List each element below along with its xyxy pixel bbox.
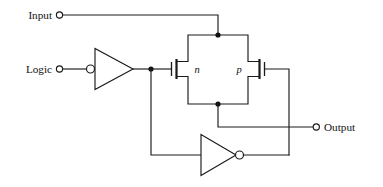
wire-pmos-gate-to-inverter2-output <box>265 69 290 155</box>
input-port-label: Input <box>28 9 53 21</box>
nmos-label: n <box>194 64 199 75</box>
inverter2-body[interactable] <box>201 135 236 176</box>
output-port-label: Output <box>324 121 356 133</box>
wire-pmos-drain-to-top-node <box>218 35 260 62</box>
inverter1-input-bubble-icon <box>87 65 95 73</box>
wire-input-to-tgate-top <box>63 15 218 35</box>
wire-pmos-source-to-bottom-node <box>218 77 260 105</box>
wire-nmos-drain-to-top-node <box>177 35 219 62</box>
wire-bottom-node-to-output <box>218 104 313 127</box>
output-terminal-icon[interactable] <box>313 124 319 130</box>
wire-lognode-to-inverter2-input <box>151 69 201 155</box>
tgate-top-junction <box>215 32 220 37</box>
pmos-label: p <box>235 64 241 75</box>
logic-port-label: Logic <box>26 63 52 75</box>
circuit-diagram: Input Logic n p <box>0 0 383 187</box>
schematic-canvas: Input Logic n p <box>0 0 383 187</box>
logic-terminal-icon[interactable] <box>56 66 62 72</box>
inverter1-body[interactable] <box>95 49 133 90</box>
inverter2-output-bubble-icon <box>236 151 244 159</box>
wire-nmos-source-to-bottom-node <box>177 77 219 105</box>
input-terminal-icon[interactable] <box>56 12 62 18</box>
